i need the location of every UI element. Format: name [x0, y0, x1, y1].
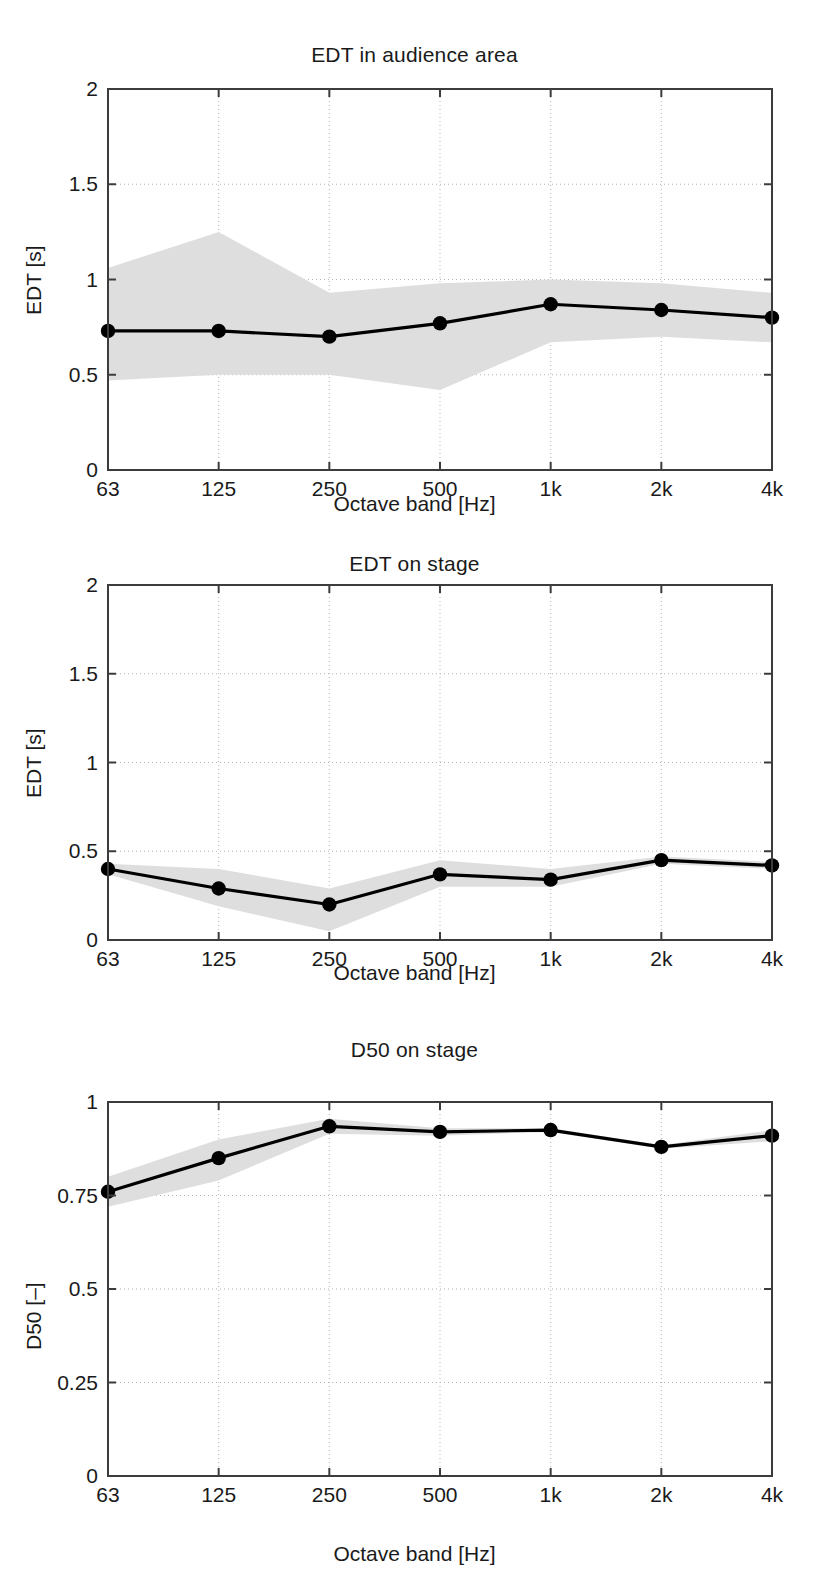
x-tick-label: 125	[201, 477, 236, 501]
x-tick-label: 250	[312, 1483, 347, 1507]
y-tick-label: 0	[86, 1464, 98, 1488]
data-point-marker	[654, 853, 668, 867]
data-point-marker	[543, 872, 557, 886]
data-point-marker	[322, 329, 336, 343]
data-point-marker	[433, 1125, 447, 1139]
y-tick-label: 1	[86, 268, 98, 292]
x-tick-label: 125	[201, 947, 236, 971]
y-tick-label: 0	[86, 928, 98, 952]
y-tick-label: 0.5	[69, 1277, 98, 1301]
plot-area	[0, 1000, 829, 1584]
y-tick-label: 0.25	[57, 1371, 98, 1395]
y-tick-label: 1	[86, 751, 98, 775]
data-point-marker	[543, 1123, 557, 1137]
x-tick-label: 63	[96, 477, 119, 501]
data-point-marker	[433, 867, 447, 881]
data-point-marker	[211, 881, 225, 895]
data-point-marker	[322, 897, 336, 911]
chart-panel-edt-stage: EDT on stage EDT [s] Octave band [Hz] 63…	[0, 528, 829, 1000]
y-tick-label: 2	[86, 573, 98, 597]
y-tick-label: 2	[86, 77, 98, 101]
x-tick-label: 500	[422, 947, 457, 971]
x-tick-label: 2k	[650, 477, 672, 501]
figure-page: EDT in audience area EDT [s] Octave band…	[0, 0, 829, 1584]
x-tick-label: 4k	[761, 947, 783, 971]
x-tick-label: 2k	[650, 947, 672, 971]
y-tick-label: 1.5	[69, 662, 98, 686]
x-tick-label: 125	[201, 1483, 236, 1507]
y-tick-label: 0	[86, 458, 98, 482]
y-tick-label: 1.5	[69, 172, 98, 196]
x-tick-label: 1k	[540, 477, 562, 501]
y-tick-label: 0.75	[57, 1184, 98, 1208]
plot-area	[0, 528, 829, 1000]
chart-panel-d50-stage: D50 on stage D50 [–] Octave band [Hz] 63…	[0, 1000, 829, 1584]
x-tick-label: 500	[422, 1483, 457, 1507]
plot-area	[0, 0, 829, 528]
x-tick-label: 63	[96, 1483, 119, 1507]
data-point-marker	[322, 1119, 336, 1133]
data-point-marker	[433, 316, 447, 330]
x-tick-label: 1k	[540, 947, 562, 971]
x-tick-label: 1k	[540, 1483, 562, 1507]
x-tick-label: 250	[312, 477, 347, 501]
x-tick-label: 500	[422, 477, 457, 501]
y-tick-label: 0.5	[69, 363, 98, 387]
x-tick-label: 250	[312, 947, 347, 971]
data-point-marker	[654, 303, 668, 317]
y-tick-label: 0.5	[69, 839, 98, 863]
x-tick-label: 4k	[761, 1483, 783, 1507]
y-tick-label: 1	[86, 1090, 98, 1114]
data-point-marker	[543, 297, 557, 311]
chart-panel-edt-audience: EDT in audience area EDT [s] Octave band…	[0, 0, 829, 528]
data-point-marker	[211, 1151, 225, 1165]
x-tick-label: 2k	[650, 1483, 672, 1507]
data-point-marker	[654, 1140, 668, 1154]
data-point-marker	[211, 324, 225, 338]
x-tick-label: 63	[96, 947, 119, 971]
x-tick-label: 4k	[761, 477, 783, 501]
